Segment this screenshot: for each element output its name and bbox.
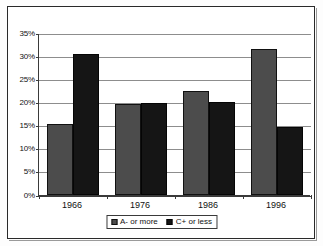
bar (183, 91, 209, 195)
y-tick-label: 15% (20, 122, 35, 130)
y-tick-group: 35% (39, 34, 40, 35)
legend-square-marker (111, 219, 117, 225)
y-tick-mark (36, 103, 39, 104)
bar (115, 104, 141, 195)
y-tick-group: 30% (39, 57, 40, 58)
y-tick-label: 5% (24, 168, 35, 176)
legend-label: C+ or less (176, 217, 212, 226)
x-tick-mark (311, 195, 312, 199)
y-tick-label: 20% (20, 99, 35, 107)
x-axis-label: 1986 (198, 200, 218, 210)
y-tick-label: 10% (20, 145, 35, 153)
x-tick-mark (175, 195, 176, 199)
bar (209, 102, 235, 195)
bar (47, 124, 73, 195)
plot-area: 0%5%10%15%20%25%30%35% (38, 34, 310, 196)
x-tick-mark (243, 195, 244, 199)
y-tick-group: 20% (39, 103, 40, 104)
y-tick-mark (36, 149, 39, 150)
bar-group (183, 34, 235, 195)
y-tick-mark (36, 80, 39, 81)
bar-group (115, 34, 167, 195)
y-tick-group: 25% (39, 80, 40, 81)
x-axis-label: 1976 (130, 200, 150, 210)
y-tick-label: 25% (20, 76, 35, 84)
y-tick-mark (36, 34, 39, 35)
bar (141, 103, 167, 195)
y-tick-mark (36, 172, 39, 173)
chart-figure: 0%5%10%15%20%25%30%35% 1966197619861996 … (0, 0, 323, 246)
x-axis-labels: 1966197619861996 (38, 200, 310, 212)
y-tick-label: 35% (20, 30, 35, 38)
y-tick-label: 30% (20, 53, 35, 61)
legend-square-marker (167, 219, 173, 225)
legend-item: C+ or less (167, 217, 212, 226)
y-tick-label: 0% (24, 192, 35, 200)
plot-wrapper: 0%5%10%15%20%25%30%35% (38, 34, 310, 196)
x-axis-label: 1966 (62, 200, 82, 210)
bar (277, 127, 303, 195)
bar-group (251, 34, 303, 195)
y-tick-group: 5% (39, 172, 40, 173)
x-tick-mark (107, 195, 108, 199)
y-tick-mark (36, 126, 39, 127)
y-tick-group: 15% (39, 126, 40, 127)
legend-item: A- or more (111, 217, 158, 226)
x-axis-label: 1996 (266, 200, 286, 210)
bar (73, 54, 99, 195)
chart-legend: A- or moreC+ or less (106, 215, 217, 229)
bar-group (47, 34, 99, 195)
y-tick-mark (36, 57, 39, 58)
y-tick-group: 10% (39, 149, 40, 150)
legend-label: A- or more (120, 217, 158, 226)
bar (251, 49, 277, 195)
x-tick-mark (39, 195, 40, 199)
